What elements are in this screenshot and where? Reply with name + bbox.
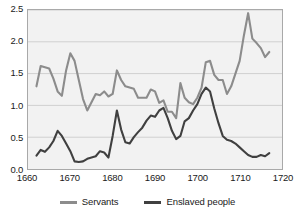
legend-label-enslaved-people: Enslaved people [166, 197, 235, 207]
series-line-servants [36, 13, 269, 118]
plot-area [27, 9, 283, 170]
legend-label-servants: Servants [82, 197, 119, 207]
y-tick-label: 0.5 [0, 133, 23, 143]
legend-swatch-servants [60, 201, 77, 204]
x-tick-label: 1670 [53, 173, 87, 183]
x-tick-label: 1700 [181, 173, 215, 183]
x-tick-label: 1690 [138, 173, 172, 183]
x-tick-label: 1710 [223, 173, 257, 183]
series-line-enslaved-people [36, 88, 269, 162]
series-lines [28, 10, 282, 169]
legend-swatch-enslaved-people [144, 201, 161, 204]
chart-legend: Servants Enslaved people [0, 197, 295, 207]
x-tick-label: 1680 [95, 173, 129, 183]
line-chart: 0.00.51.01.52.02.5 166016701680169017001… [0, 0, 295, 223]
x-tick-label: 1660 [10, 173, 44, 183]
y-tick-label: 1.5 [0, 68, 23, 78]
y-tick-label: 2.0 [0, 36, 23, 46]
x-tick-label: 1720 [266, 173, 295, 183]
legend-item-servants: Servants [60, 197, 119, 207]
y-tick-label: 1.0 [0, 101, 23, 111]
legend-item-enslaved-people: Enslaved people [144, 197, 235, 207]
y-tick-label: 2.5 [0, 4, 23, 14]
